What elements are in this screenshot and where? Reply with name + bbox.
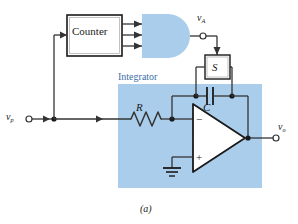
and-gate: [142, 14, 190, 58]
signal-arrow-icon-and-in-1: [134, 21, 142, 28]
switch-label: S: [212, 62, 218, 73]
circuit-schematic: [0, 0, 298, 224]
input-terminal-label: vp: [6, 112, 14, 123]
integrator-label: Integrator: [118, 72, 157, 82]
output-terminal-label: vo: [278, 122, 286, 133]
gate-output-terminal-label: vA: [197, 13, 205, 24]
junction-dot-icon-output: [245, 135, 250, 140]
figure-caption: (a): [140, 204, 152, 214]
signal-arrow-icon-counter-in: [60, 32, 67, 39]
capacitor-label: C: [203, 102, 210, 113]
output-terminal-circle: [273, 135, 279, 141]
signal-arrow-icon-and-in-3: [134, 43, 142, 50]
signal-arrow-icon-input: [43, 116, 50, 123]
counter-label: Counter: [72, 26, 107, 37]
gate-output-terminal-circle: [200, 33, 206, 39]
opamp-inverting-label: −: [196, 114, 202, 125]
signal-arrow-icon-mid: [96, 116, 103, 123]
input-terminal-circle: [26, 116, 32, 122]
circuit-figure: vp vo vA R C S Counter Integrator − + (a…: [0, 0, 298, 224]
signal-arrow-icon-switch-in: [214, 47, 221, 55]
opamp-noninverting-label: +: [196, 152, 202, 163]
signal-arrow-icon-and-in-2: [134, 32, 142, 39]
resistor-label: R: [136, 102, 143, 113]
